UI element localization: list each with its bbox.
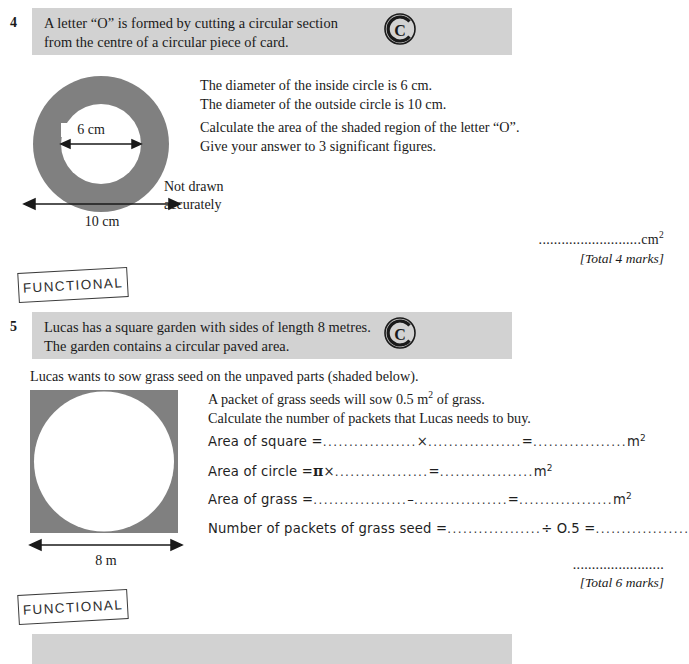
question-4-prompt: A letter “O” is formed by cutting a circ… — [44, 14, 502, 52]
area-of-circle-label: Area of circle = — [208, 464, 313, 479]
area-of-grass-operator-2: = — [508, 492, 519, 507]
question-5-total-marks: [Total 6 marks] — [432, 575, 664, 591]
calculator-allowed-c-icon-2: C — [383, 316, 417, 350]
area-of-square-blank-2[interactable]: .................. — [428, 435, 522, 449]
question-4-answer-unit-exponent: 2 — [659, 230, 664, 240]
question-5-answer-line: ........................ — [432, 557, 664, 573]
area-of-square-operator-1: × — [417, 434, 428, 449]
area-of-grass-blank-2[interactable]: .................. — [414, 493, 508, 507]
area-of-square-label: Area of square = — [208, 434, 323, 449]
number-of-packets-blank-1[interactable]: .................. — [447, 522, 541, 536]
area-of-grass-line: Area of grass =..................–......… — [208, 493, 632, 506]
question-5-details-pre: A packet of grass seeds will sow 0.5 m — [208, 391, 428, 407]
question-5-details-line-2: Calculate the number of packets that Luc… — [208, 409, 648, 428]
pi-symbol: π — [313, 463, 323, 479]
annulus-outer-dimension-arrow — [22, 196, 182, 212]
area-of-square-blank-1[interactable]: .................. — [323, 435, 417, 449]
not-drawn-accurately-note: Not drawn accurately — [164, 178, 224, 214]
area-of-grass-blank-3[interactable]: .................. — [519, 493, 613, 507]
annulus-outer-diameter-label: 10 cm — [22, 215, 182, 229]
area-of-square-line: Area of square =..................×.....… — [208, 435, 646, 448]
area-of-square-blank-3[interactable]: .................. — [533, 435, 627, 449]
area-of-square-operator-2: = — [522, 434, 533, 449]
functional-stamp-bottom: FUNCTIONAL — [17, 589, 129, 625]
number-of-packets-operator: ÷ O.5 = — [541, 521, 595, 536]
area-of-grass-label: Area of grass = — [208, 492, 313, 507]
area-of-square-unit-exponent: 2 — [640, 433, 646, 443]
question-4-answer-dots: ........................... — [539, 232, 642, 247]
calculator-allowed-c-icon: C — [383, 12, 417, 46]
question-4-number: 4 — [10, 16, 17, 30]
number-of-packets-line: Number of packets of grass seed =.......… — [208, 522, 689, 535]
area-of-circle-blank-2[interactable]: .................. — [440, 465, 534, 479]
question-4-total-marks: [Total 4 marks] — [432, 251, 664, 267]
question-5-prompt: Lucas has a square garden with sides of … — [44, 318, 502, 356]
question-5-details-line-1: A packet of grass seeds will sow 0.5 m2 … — [208, 390, 648, 409]
square-side-dimension-arrow — [28, 537, 184, 553]
number-of-packets-blank-2[interactable]: .................. — [596, 522, 689, 536]
question-5-lead-in: Lucas wants to sow grass seed on the unp… — [30, 367, 530, 386]
area-of-grass-unit: m — [613, 492, 626, 507]
question-4-details: The diameter of the inside circle is 6 c… — [200, 76, 620, 114]
area-of-circle-operator-1: × — [323, 464, 334, 479]
area-of-square-unit: m — [627, 434, 640, 449]
svg-text:C: C — [394, 326, 406, 343]
functional-stamp-top-label: FUNCTIONAL — [23, 275, 124, 296]
number-of-packets-label: Number of packets of grass seed = — [208, 521, 447, 536]
question-4-header-bar: A letter “O” is formed by cutting a circ… — [32, 8, 512, 55]
question-5-details-post: of grass. — [433, 391, 485, 407]
question-5-number: 5 — [10, 320, 17, 334]
question-4-answer-line: ...........................cm2 — [432, 232, 664, 248]
next-question-header-bar — [32, 634, 512, 664]
square-with-inscribed-circle-diagram — [30, 390, 182, 536]
area-of-grass-unit-exponent: 2 — [626, 491, 632, 501]
question-4-instruction: Calculate the area of the shaded region … — [200, 118, 630, 156]
area-of-circle-unit: m — [534, 464, 547, 479]
functional-stamp-top: FUNCTIONAL — [17, 267, 129, 303]
functional-stamp-bottom-label: FUNCTIONAL — [23, 597, 124, 618]
square-side-label: 8 m — [28, 554, 184, 568]
area-of-circle-blank-1[interactable]: .................. — [335, 465, 429, 479]
question-5-header-bar: Lucas has a square garden with sides of … — [32, 312, 512, 359]
question-4-answer-unit: cm — [641, 232, 659, 247]
area-of-grass-operator-1: – — [407, 492, 414, 507]
area-of-circle-unit-exponent: 2 — [547, 463, 553, 473]
area-of-circle-operator-2: = — [429, 464, 440, 479]
area-of-circle-line: Area of circle =π×..................=...… — [208, 464, 553, 478]
area-of-grass-blank-1[interactable]: .................. — [313, 493, 407, 507]
annulus-inner-diameter-label: 6 cm — [61, 123, 121, 137]
svg-text:C: C — [394, 22, 406, 39]
